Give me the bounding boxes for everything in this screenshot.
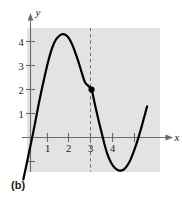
y-tick-label-4: 4 xyxy=(18,37,24,48)
y-tick-label-1: 1 xyxy=(18,109,23,120)
figure-container: 4 3 2 1 1 2 3 4 y x (b) xyxy=(0,0,182,202)
x-tick-label-1: 1 xyxy=(45,143,50,154)
marked-point-on-curve xyxy=(88,86,94,92)
y-tick-label-3: 3 xyxy=(18,61,23,72)
x-tick-label-4: 4 xyxy=(110,143,116,154)
y-tick-label-2: 2 xyxy=(18,85,23,96)
graph-plot: 4 3 2 1 1 2 3 4 y x xyxy=(0,0,182,202)
x-tick-label-2: 2 xyxy=(66,143,71,154)
figure-caption: (b) xyxy=(11,178,25,192)
y-axis-label: y xyxy=(35,6,41,18)
x-axis-label: x xyxy=(174,131,180,143)
